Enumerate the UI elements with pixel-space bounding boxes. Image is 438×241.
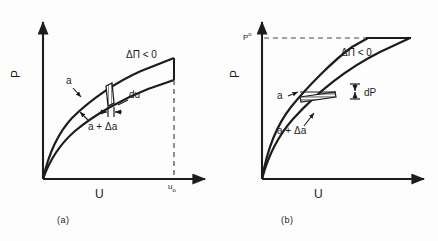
panel-a-curve-ada-label: a + Δa xyxy=(88,122,117,132)
panel-b-y-axis-label: P xyxy=(229,70,241,78)
panel-b-dp-label: dP xyxy=(364,88,376,98)
panel-a-xtick-subscript: o xyxy=(172,187,175,193)
panel-b-caption: (b) xyxy=(281,216,294,225)
panel-a-caption: (a) xyxy=(57,216,70,225)
panel-b-dp-dimension xyxy=(350,84,360,99)
curve-a-panel-a xyxy=(43,58,174,179)
panel-b-ytick-po: Po xyxy=(243,31,252,42)
figure-container xyxy=(0,0,438,241)
panel-b-label-a-leader xyxy=(288,92,298,96)
panel-a-curves xyxy=(43,58,174,179)
panel-a-du-label: du xyxy=(129,90,140,100)
panel-a-hatched-strip xyxy=(106,83,114,106)
panel-b-curve-a-label: a xyxy=(277,91,283,101)
panel-a-curve-a-label: a xyxy=(66,76,72,86)
panel-b-curve-ada-label: a + Δa xyxy=(277,126,306,136)
panel-a-label-a-leader xyxy=(73,88,81,97)
panel-a-xtick-uo: uo xyxy=(168,183,176,193)
panel-b-axes xyxy=(262,22,424,179)
panel-b-curves xyxy=(262,38,411,179)
panel-a-region-label: ΔΠ < 0 xyxy=(126,50,157,60)
panel-b-x-axis-label: U xyxy=(314,188,323,200)
panel-a-label-ada-leader xyxy=(80,112,88,120)
curve-a-panel-b xyxy=(262,38,368,179)
panel-a-x-axis-label: U xyxy=(95,188,104,200)
panel-a-y-axis-label: P xyxy=(10,70,22,78)
panel-b-region-label: ΔΠ < 0 xyxy=(341,48,372,58)
panel-b-ytick-superscript: o xyxy=(248,31,251,37)
panel-a-du-dimension xyxy=(100,107,122,117)
diagram-svg xyxy=(0,0,438,241)
